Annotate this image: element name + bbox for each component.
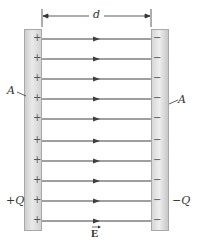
plus-sign: + bbox=[33, 73, 41, 83]
plus-sign: + bbox=[33, 33, 41, 43]
field-arrow-icon bbox=[93, 199, 100, 204]
minus-sign: − bbox=[153, 195, 161, 205]
minus-sign: − bbox=[153, 33, 161, 43]
minus-sign: − bbox=[153, 73, 161, 83]
separation-label: d bbox=[92, 9, 101, 20]
plus-sign: + bbox=[33, 215, 41, 225]
plus-sign: + bbox=[33, 93, 41, 103]
minus-sign: − bbox=[153, 53, 161, 63]
field-arrow-icon bbox=[93, 179, 100, 184]
field-arrow-icon bbox=[93, 159, 100, 164]
minus-sign: − bbox=[153, 113, 161, 123]
field-lines-svg bbox=[0, 0, 198, 246]
area-label-left: A bbox=[7, 85, 15, 96]
plus-sign: + bbox=[33, 155, 41, 165]
electric-field-lines bbox=[42, 37, 151, 224]
field-label: E bbox=[91, 227, 98, 239]
plus-sign: + bbox=[33, 53, 41, 63]
field-arrow-icon bbox=[93, 37, 100, 42]
field-arrow-icon bbox=[93, 219, 100, 224]
field-arrow-icon bbox=[93, 97, 100, 102]
plus-sign: + bbox=[33, 113, 41, 123]
field-arrow-icon bbox=[93, 77, 100, 82]
area-label-right: A bbox=[178, 94, 186, 105]
charge-label-positive: +Q bbox=[6, 195, 24, 206]
minus-sign: − bbox=[153, 93, 161, 103]
minus-sign: − bbox=[153, 135, 161, 145]
field-arrow-icon bbox=[93, 117, 100, 122]
capacitor-diagram: ++++++++++ −−−−−−−−−− d A A +Q −Q E bbox=[0, 0, 198, 246]
area-leader-right bbox=[169, 100, 178, 104]
minus-sign: − bbox=[153, 155, 161, 165]
minus-sign: − bbox=[153, 215, 161, 225]
minus-sign: − bbox=[153, 175, 161, 185]
charge-label-negative: −Q bbox=[172, 195, 190, 206]
field-arrow-icon bbox=[93, 57, 100, 62]
area-leader-left bbox=[17, 92, 26, 96]
field-arrow-icon bbox=[93, 139, 100, 144]
plus-sign: + bbox=[33, 135, 41, 145]
plus-sign: + bbox=[33, 195, 41, 205]
plus-sign: + bbox=[33, 175, 41, 185]
